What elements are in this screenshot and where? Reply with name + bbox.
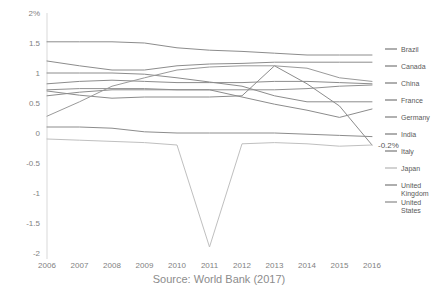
y-tick-label: 0.5 [29, 99, 41, 108]
x-tick-label: 2007 [71, 261, 89, 270]
legend-label-united-states-line2[interactable]: States [401, 207, 421, 214]
line-chart: 2%1.510.50-0.5-1-1.5-2 20062007200820092… [0, 0, 437, 300]
data-point-annotation: -0.2% [378, 141, 399, 150]
legend-label-japan[interactable]: Japan [401, 165, 420, 173]
x-tick-label: 2011 [201, 261, 219, 270]
chart-canvas: 2%1.510.50-0.5-1-1.5-2 20062007200820092… [0, 0, 437, 300]
legend-label-france[interactable]: France [401, 97, 423, 104]
y-tick-label: -2 [33, 249, 41, 258]
series-line-germany [47, 85, 372, 90]
x-tick-label: 2010 [168, 261, 186, 270]
series-line-brazil [47, 42, 372, 55]
y-tick-label: -0.5 [26, 159, 40, 168]
legend-label-italy[interactable]: Italy [401, 148, 414, 156]
legend-label-india[interactable]: India [401, 131, 416, 138]
legend-label-canada[interactable]: Canada [401, 63, 426, 70]
x-tick-label: 2013 [266, 261, 284, 270]
x-tick-label: 2016 [363, 261, 381, 270]
y-tick-label: 1.5 [29, 39, 41, 48]
legend-label-china[interactable]: China [401, 80, 419, 87]
x-tick-label: 2009 [136, 261, 154, 270]
legend-label-united-kingdom-line2[interactable]: Kingdom [401, 190, 429, 198]
x-tick-label: 2008 [103, 261, 121, 270]
series-line-canada [47, 61, 372, 70]
y-tick-label: 0 [36, 129, 41, 138]
legend-label-germany[interactable]: Germany [401, 114, 430, 122]
y-tick-labels: 2%1.510.50-0.5-1-1.5-2 [26, 9, 40, 258]
source-caption: Source: World Bank (2017) [153, 273, 285, 285]
x-tick-label: 2006 [38, 261, 56, 270]
y-tick-label: -1.5 [26, 219, 40, 228]
series-line-japan [47, 139, 372, 247]
y-tick-label: -1 [33, 189, 41, 198]
legend-label-united-states[interactable]: United [401, 199, 421, 206]
legend-label-brazil[interactable]: Brazil [401, 46, 419, 53]
y-tick-label: 2% [28, 9, 40, 18]
y-tick-label: 1 [36, 69, 41, 78]
x-tick-label: 2012 [233, 261, 251, 270]
x-tick-label: 2015 [331, 261, 349, 270]
data-series-group [47, 42, 372, 247]
chart-annotations: -0.2% [378, 141, 399, 150]
x-tick-labels: 2006200720082009201020112012201320142015… [38, 261, 381, 270]
legend-label-united-kingdom[interactable]: United [401, 182, 421, 189]
chart-legend: BrazilCanadaChinaFranceGermanyIndiaItaly… [385, 46, 430, 215]
series-line-united-kingdom [47, 127, 372, 137]
x-tick-label: 2014 [298, 261, 316, 270]
